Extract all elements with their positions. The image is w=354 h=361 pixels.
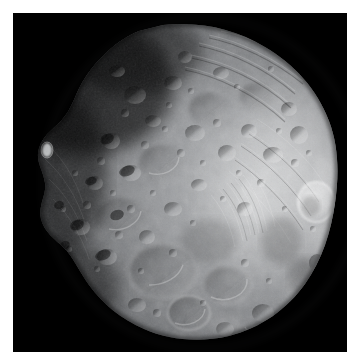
- phobos-render: [13, 13, 347, 352]
- crater-s33: [280, 332, 286, 338]
- photo-plate: [13, 13, 347, 352]
- phobos-surface: [13, 13, 347, 352]
- image-viewport: [0, 0, 354, 361]
- surface-grain: [13, 13, 347, 352]
- phobos-body: [13, 13, 347, 352]
- crater-s34: [180, 340, 186, 346]
